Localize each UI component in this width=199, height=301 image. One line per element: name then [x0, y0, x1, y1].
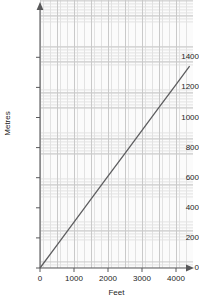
y-tick-label-1200: 1200 — [167, 83, 199, 91]
y-axis-ticks — [36, 57, 40, 268]
y-tick-label-800: 800 — [167, 144, 199, 152]
y-tick-label-0: 0 — [167, 264, 199, 272]
x-tick-label-4000: 4000 — [156, 275, 196, 283]
y-axis-title: Metres — [3, 104, 12, 144]
y-tick-label-200: 200 — [167, 234, 199, 242]
y-axis-arrowhead — [37, 2, 44, 10]
y-tick-label-400: 400 — [167, 204, 199, 212]
conversion-line-chart: 0 200 400 600 800 1000 1200 1400 0 1000 … — [0, 0, 199, 301]
x-axis-ticks — [40, 268, 176, 272]
y-tick-label-1400: 1400 — [167, 53, 199, 61]
y-tick-label-600: 600 — [167, 174, 199, 182]
x-axis-title: Feet — [40, 288, 193, 297]
y-tick-label-1000: 1000 — [167, 114, 199, 122]
